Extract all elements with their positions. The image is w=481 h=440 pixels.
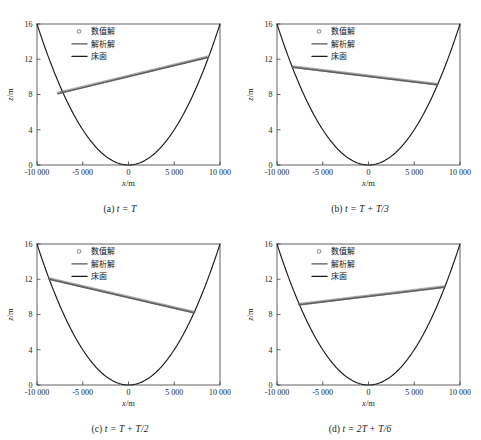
legend-item-3: 床面 — [312, 271, 347, 281]
legend-item-3: 床面 — [72, 271, 107, 281]
legend-label: 床面 — [91, 51, 107, 61]
caption-expression: t = 2T + T/6 — [340, 424, 391, 434]
x-tick-label: -5 000 — [72, 388, 93, 397]
plot-area-b: -10 000-5 00005 00010 0000481216x/mz/m数值… — [240, 0, 480, 220]
x-tick-label: -5 000 — [312, 388, 333, 397]
legend-item-1: 数值解 — [77, 26, 115, 36]
y-tick-label: 0 — [29, 381, 33, 390]
y-tick-label: 0 — [269, 161, 273, 170]
legend-label: 解析解 — [331, 259, 355, 269]
y-tick-label: 16 — [265, 240, 273, 249]
legend-item-1: 数值解 — [317, 26, 355, 36]
y-tick-label: 8 — [29, 310, 33, 319]
subplot-caption-a: (a) t = T — [0, 204, 240, 214]
y-tick-label: 0 — [269, 381, 273, 390]
plot-frame — [37, 24, 220, 165]
caption-index: (d) — [329, 424, 340, 434]
y-tick-label: 12 — [265, 55, 273, 64]
y-tick-label: 16 — [25, 240, 33, 249]
legend-d: 数值解解析解床面 — [312, 246, 355, 281]
legend-a: 数值解解析解床面 — [72, 26, 115, 61]
plot-frame — [37, 244, 220, 385]
legend-c: 数值解解析解床面 — [72, 246, 115, 281]
y-tick-label: 8 — [269, 310, 273, 319]
subplot-d: -10 000-5 00005 00010 0000481216x/mz/m数值… — [240, 220, 480, 440]
legend-label: 数值解 — [331, 26, 355, 36]
y-axis-label: z/m — [245, 88, 255, 102]
plot-area-c: -10 000-5 00005 00010 0000481216x/mz/m数值… — [0, 220, 240, 440]
y-tick-label: 0 — [29, 161, 33, 170]
analytical-solution-line — [49, 279, 194, 312]
y-tick-label: 12 — [25, 55, 33, 64]
y-axis-label: z/m — [5, 88, 15, 102]
y-tick-label: 12 — [265, 275, 273, 284]
caption-expression: t = T — [114, 204, 136, 214]
legend-item-2: 解析解 — [72, 39, 115, 49]
legend-item-3: 床面 — [72, 51, 107, 61]
x-tick-label: 5 000 — [405, 388, 423, 397]
legend-label: 解析解 — [91, 39, 115, 49]
bed-surface-curve — [37, 244, 220, 385]
legend-item-1: 数值解 — [317, 246, 355, 256]
y-axis-label: z/m — [5, 308, 15, 322]
caption-index: (c) — [91, 424, 102, 434]
x-tick-label: 5 000 — [165, 388, 183, 397]
legend-item-3: 床面 — [312, 51, 347, 61]
plot-area-d: -10 000-5 00005 00010 0000481216x/mz/m数值… — [240, 220, 480, 440]
caption-index: (b) — [331, 204, 342, 214]
legend-circle-marker-icon — [77, 250, 81, 254]
y-tick-label: 12 — [25, 275, 33, 284]
analytical-solution-line — [293, 67, 438, 85]
legend-circle-marker-icon — [77, 30, 81, 34]
legend-label: 床面 — [331, 271, 347, 281]
x-tick-label: 0 — [367, 388, 371, 397]
legend-label: 数值解 — [331, 246, 355, 256]
x-tick-label: 10 000 — [209, 168, 231, 177]
y-tick-label: 8 — [269, 90, 273, 99]
bed-surface-curve — [277, 24, 460, 165]
y-tick-label: 16 — [265, 20, 273, 29]
y-tick-label: 4 — [269, 346, 273, 355]
legend-item-2: 解析解 — [312, 39, 355, 49]
y-tick-label: 4 — [269, 126, 273, 135]
x-tick-label: 10 000 — [209, 388, 231, 397]
y-tick-label: 8 — [29, 90, 33, 99]
plot-frame — [277, 244, 460, 385]
x-tick-label: 0 — [127, 168, 131, 177]
subplot-caption-d: (d) t = 2T + T/6 — [240, 424, 480, 434]
x-axis-label: x/m — [121, 178, 135, 188]
y-tick-label: 4 — [29, 126, 33, 135]
subplot-a: -10 000-5 00005 00010 0000481216x/mz/m数值… — [0, 0, 240, 220]
legend-label: 床面 — [91, 271, 107, 281]
y-tick-label: 4 — [29, 346, 33, 355]
x-tick-label: 0 — [367, 168, 371, 177]
x-tick-label: 10 000 — [449, 168, 471, 177]
bed-surface-curve — [277, 244, 460, 385]
caption-index: (a) — [104, 204, 115, 214]
legend-item-2: 解析解 — [72, 259, 115, 269]
legend-label: 数值解 — [91, 246, 115, 256]
subplot-c: -10 000-5 00005 00010 0000481216x/mz/m数值… — [0, 220, 240, 440]
caption-expression: t = T + T/3 — [343, 204, 389, 214]
legend-item-1: 数值解 — [77, 246, 115, 256]
x-tick-label: 5 000 — [165, 168, 183, 177]
x-axis-label: x/m — [361, 178, 375, 188]
legend-circle-marker-icon — [317, 30, 321, 34]
bed-surface-curve — [37, 24, 220, 165]
plot-area-a: -10 000-5 00005 00010 0000481216x/mz/m数值… — [0, 0, 240, 220]
subplot-b: -10 000-5 00005 00010 0000481216x/mz/m数值… — [240, 0, 480, 220]
legend-item-2: 解析解 — [312, 259, 355, 269]
analytical-solution-line — [58, 57, 208, 93]
y-tick-label: 16 — [25, 20, 33, 29]
x-axis-label: x/m — [361, 398, 375, 408]
legend-b: 数值解解析解床面 — [312, 26, 355, 61]
legend-circle-marker-icon — [317, 250, 321, 254]
figure-panel-grid: -10 000-5 00005 00010 0000481216x/mz/m数值… — [0, 0, 481, 440]
subplot-caption-b: (b) t = T + T/3 — [240, 204, 480, 214]
x-axis-label: x/m — [121, 398, 135, 408]
x-tick-label: 0 — [127, 388, 131, 397]
x-tick-label: 10 000 — [449, 388, 471, 397]
x-tick-label: -5 000 — [312, 168, 333, 177]
x-tick-label: 5 000 — [405, 168, 423, 177]
legend-label: 数值解 — [91, 26, 115, 36]
